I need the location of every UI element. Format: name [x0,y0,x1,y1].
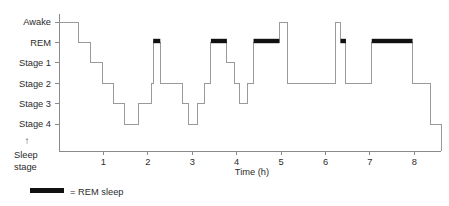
x-tick-label: 4 [234,157,239,167]
y-axis-caption-line2: stage [14,162,37,172]
rem-overlay-bars [153,39,412,43]
y-tick-label: Stage 2 [19,79,51,89]
x-tick-label: 2 [145,157,150,167]
y-tick-label: Stage 4 [19,119,51,129]
x-tick-label: 8 [412,157,417,167]
x-tick-label: 5 [279,157,284,167]
sleep-stage-chart: AwakeREMStage 1Stage 2Stage 3Stage 4 123… [0,0,449,206]
y-tick-label: REM [30,38,51,48]
y-axis: AwakeREMStage 1Stage 2Stage 3Stage 4 [19,14,59,151]
x-tick-label: 1 [101,157,106,167]
y-tick-label: Stage 1 [19,58,51,68]
y-tick-label: Awake [23,17,51,27]
rem-period-bar [211,39,227,43]
up-arrow-icon: ↑ [25,135,30,146]
legend-label: = REM sleep [70,187,123,197]
legend: = REM sleep [30,187,123,197]
rem-period-bar [254,39,280,43]
rem-period-bar [153,39,160,43]
x-axis-title: Time (h) [235,167,269,177]
x-tick-label: 7 [367,157,372,167]
y-axis-caption-line1: Sleep [14,150,38,160]
rem-bar-swatch [30,188,64,193]
y-tick-label: Stage 3 [19,99,51,109]
hypnogram-figure: AwakeREMStage 1Stage 2Stage 3Stage 4 123… [0,0,449,206]
x-tick-label: 3 [190,157,195,167]
rem-period-bar [341,39,346,43]
x-tick-label: 6 [323,157,328,167]
rem-period-bar [372,39,413,43]
x-axis: 12345678 [59,151,441,167]
